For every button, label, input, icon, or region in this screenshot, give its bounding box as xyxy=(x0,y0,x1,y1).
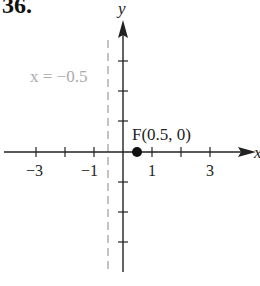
problem-number: 36. xyxy=(2,0,32,19)
x-axis-label: x xyxy=(253,143,260,162)
directrix-label: x = −0.5 xyxy=(30,67,87,86)
tick-label-3: 3 xyxy=(206,162,214,179)
coordinate-plane: −3 −1 1 3 x = −0.5 F(0.5, 0) y x xyxy=(0,0,260,286)
tick-label-neg1: −1 xyxy=(81,162,98,179)
focus-point xyxy=(132,147,142,157)
graph-figure: 36. −3 −1 xyxy=(0,0,260,286)
tick-label-neg3: −3 xyxy=(26,162,43,179)
focus-label: F(0.5, 0) xyxy=(132,125,191,144)
y-axis-label: y xyxy=(116,0,126,18)
tick-label-1: 1 xyxy=(148,162,156,179)
